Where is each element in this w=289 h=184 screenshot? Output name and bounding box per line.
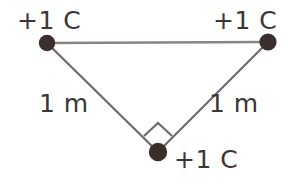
length-label-right-side: 1 m [209,91,259,116]
triangle-side-top [47,42,268,43]
charge-dot-bottom [149,143,167,161]
physics-diagram-figure: +1 C +1 C +1 C 1 m 1 m [0,0,289,184]
right-angle-marker-icon [144,123,172,136]
length-label-left-side: 1 m [39,91,89,116]
charge-label-bottom: +1 C [174,147,238,172]
charge-dot-top-right [259,33,276,50]
charge-dot-top-left [39,35,55,51]
charge-label-top-left: +1 C [17,8,81,33]
charge-label-top-right: +1 C [213,8,277,33]
